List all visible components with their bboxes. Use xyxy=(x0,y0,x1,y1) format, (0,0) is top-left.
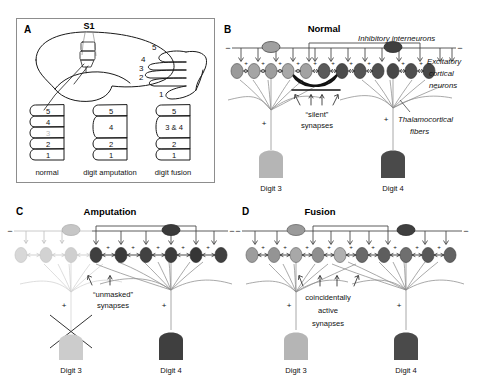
d-plus-fiber-right: + xyxy=(397,301,402,310)
panel-c-letter: C xyxy=(16,206,23,217)
c-interneuron-left xyxy=(62,225,80,236)
b-neuron-4 xyxy=(282,64,294,79)
d-minus-left: − xyxy=(235,226,240,236)
normal-digit-3: 3 xyxy=(46,129,50,138)
b-neuron-7 xyxy=(336,64,348,79)
c-neuron-2 xyxy=(40,248,52,263)
d-digit4-label: Digit 4 xyxy=(395,366,417,375)
fus-digit-1: 1 xyxy=(172,151,176,160)
c-plus-2: + xyxy=(131,243,135,250)
c-cone-digit4 xyxy=(159,333,183,361)
normal-digit-1: 1 xyxy=(46,151,50,160)
fus-digit-5: 5 xyxy=(172,107,176,116)
fus-digit-3-4: 3 & 4 xyxy=(165,123,183,132)
b-digit4-label: Digit 4 xyxy=(382,184,404,193)
b-inhibitory-label: Inhibitory interneurons xyxy=(358,34,435,43)
d-plus-4: + xyxy=(327,243,331,250)
normal-digit-4: 4 xyxy=(46,118,50,127)
d-neuron-2 xyxy=(268,248,280,263)
c-minus-left: − xyxy=(7,226,12,236)
hand-digit-2: 2 xyxy=(139,73,144,82)
normal-digit-2: 2 xyxy=(46,140,50,149)
d-digit3-label: Digit 3 xyxy=(285,366,307,375)
b-interneuron-bracket xyxy=(309,43,420,48)
hand-digit-1: 1 xyxy=(159,90,164,99)
c-minus-right: − xyxy=(229,226,234,236)
c-plus-fiber-left: + xyxy=(62,301,67,310)
d-coincident-label-3: synapses xyxy=(312,319,344,328)
d-minus-right: − xyxy=(463,226,468,236)
d-plus-5: + xyxy=(349,243,353,250)
d-neuron-7 xyxy=(378,248,390,263)
b-neuron-2 xyxy=(248,64,260,79)
b-interneuron-left xyxy=(262,42,280,53)
b-minus-sign: − xyxy=(225,43,230,53)
c-arrows-dark xyxy=(94,231,217,245)
c-interneuron-right xyxy=(162,225,180,236)
c-plus-1: + xyxy=(106,243,110,250)
d-plus-signs: + + + + + + + + + xyxy=(261,243,441,250)
b-plus-1: + xyxy=(244,59,248,66)
d-plus-1: + xyxy=(261,243,265,250)
c-plus-fiber-right: + xyxy=(162,301,167,310)
panel-b-title: Normal xyxy=(308,23,341,34)
b-plus-fiber-right: + xyxy=(384,115,389,124)
c-neuron-7 xyxy=(165,248,177,263)
b-neuron-8 xyxy=(354,64,366,79)
panel-d-letter: D xyxy=(242,206,249,217)
d-plus-fiber-left: + xyxy=(287,301,292,310)
b-plus-9: + xyxy=(401,59,405,66)
b-excitatory-label-2: cortical xyxy=(429,69,454,78)
b-digit3-label: Digit 3 xyxy=(260,184,282,193)
d-neuron-10 xyxy=(444,248,456,263)
c-arrows-faded xyxy=(24,231,64,244)
amp-digit-2: 2 xyxy=(109,140,113,149)
panel-c-title: Amputation xyxy=(84,206,137,217)
b-plus-4: + xyxy=(296,59,300,66)
d-plus-6: + xyxy=(371,243,375,250)
fus-digit-2: 2 xyxy=(172,140,176,149)
b-neuron-10 xyxy=(387,64,399,79)
d-neuron-4 xyxy=(312,248,324,263)
amp-digit-1: 1 xyxy=(109,151,113,160)
b-cone-digit3 xyxy=(259,151,283,179)
d-plus-2: + xyxy=(283,243,287,250)
c-digit3-label: Digit 3 xyxy=(60,366,82,375)
c-neuron-4 xyxy=(90,248,102,263)
d-coincident-label-1: coincidentally xyxy=(305,293,351,302)
b-silent-label-2: synapses xyxy=(301,121,333,130)
d-neuron-6 xyxy=(356,248,368,263)
caption-normal: normal xyxy=(35,168,59,177)
d-cone-digit3 xyxy=(284,333,308,361)
c-neuron-6 xyxy=(140,248,152,263)
d-plus-9: + xyxy=(437,243,441,250)
c-plus-3: + xyxy=(156,243,160,250)
c-neuron-8 xyxy=(190,248,202,263)
b-neuron-6 xyxy=(318,64,330,79)
panel-b-letter: B xyxy=(224,24,231,35)
map-column-fusion: 5 3 & 4 2 1 digit fusion xyxy=(155,105,191,177)
amp-digit-4: 4 xyxy=(109,123,113,132)
b-plus-5: + xyxy=(313,59,317,66)
d-neuron-5 xyxy=(334,248,346,263)
d-lateral-connections xyxy=(258,254,444,257)
d-plus-3: + xyxy=(305,243,309,250)
panel-c: C Amputation − − xyxy=(7,206,234,375)
b-plus-7: + xyxy=(349,59,353,66)
c-plus-5: + xyxy=(206,243,210,250)
b-silent-synapse-arcs xyxy=(292,74,340,90)
d-cone-digit4 xyxy=(394,333,418,361)
b-excitatory-label-1: Excitatory xyxy=(427,57,462,66)
d-interneuron-right xyxy=(397,225,415,236)
s1-label: S1 xyxy=(83,21,94,31)
d-plus-8: + xyxy=(415,243,419,250)
panel-a-letter: A xyxy=(24,24,31,35)
c-neuron-9 xyxy=(215,248,227,263)
hand-digit-3: 3 xyxy=(139,64,144,73)
hand-digit-5: 5 xyxy=(152,43,157,52)
d-neuron-8 xyxy=(400,248,412,263)
b-plus-3: + xyxy=(278,59,282,66)
d-neuron-9 xyxy=(422,248,434,263)
b-minus-sign-right: − xyxy=(457,43,462,53)
b-silent-pointers xyxy=(295,95,339,106)
